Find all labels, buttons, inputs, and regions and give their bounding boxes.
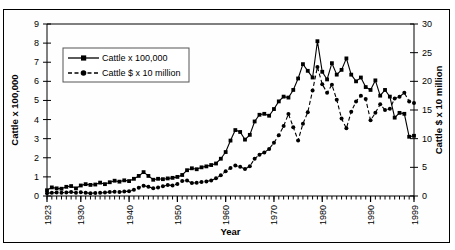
series-marker xyxy=(108,180,112,184)
series-marker xyxy=(291,88,295,92)
series-marker xyxy=(89,183,93,187)
series-marker xyxy=(272,141,276,145)
x-axis-title: Year xyxy=(220,226,240,237)
series-marker xyxy=(93,191,97,195)
series-marker xyxy=(93,183,97,187)
series-marker xyxy=(412,134,416,138)
series-marker xyxy=(190,181,194,185)
series-marker xyxy=(185,168,189,172)
x-tick-label: 1999 xyxy=(410,205,420,225)
left-tick-label: 8 xyxy=(34,38,39,48)
series-marker xyxy=(349,73,353,77)
series-marker xyxy=(306,110,310,114)
series-marker xyxy=(320,70,324,74)
x-tick-label: 1940 xyxy=(125,205,135,225)
series-marker xyxy=(45,191,49,195)
series-marker xyxy=(209,179,213,183)
series-marker xyxy=(55,186,59,190)
series-marker xyxy=(175,175,179,179)
series-marker xyxy=(267,114,271,118)
series-marker xyxy=(180,173,184,177)
series-marker xyxy=(243,167,247,171)
series-marker xyxy=(364,97,368,101)
series-marker xyxy=(180,179,184,183)
series-marker xyxy=(393,97,397,101)
series-marker xyxy=(272,107,276,111)
series-marker xyxy=(69,184,73,188)
series-marker xyxy=(219,157,223,161)
series-marker xyxy=(354,99,358,103)
series-marker xyxy=(84,191,88,195)
series-marker xyxy=(103,182,107,186)
series-marker xyxy=(311,76,315,80)
series-marker xyxy=(108,190,112,194)
series-marker xyxy=(248,133,252,137)
series-marker xyxy=(55,191,59,195)
series-marker xyxy=(359,94,363,98)
series-marker xyxy=(224,169,228,173)
series-marker xyxy=(50,191,54,195)
right-tick-label: 15 xyxy=(422,105,432,115)
series-marker xyxy=(50,186,54,190)
series-marker xyxy=(132,188,136,192)
series-marker xyxy=(296,77,300,81)
series-marker xyxy=(175,182,179,186)
series-marker xyxy=(74,186,78,190)
series-marker xyxy=(84,182,88,186)
series-marker xyxy=(59,191,63,195)
series-marker xyxy=(161,177,165,181)
series-marker xyxy=(340,68,344,72)
series-marker xyxy=(320,82,324,86)
series-marker xyxy=(127,189,131,193)
x-tick-label: 1950 xyxy=(173,205,183,225)
series-marker xyxy=(325,91,329,95)
series-marker xyxy=(219,173,223,177)
series-marker xyxy=(204,179,208,183)
left-tick-label: 7 xyxy=(34,57,39,67)
series-marker xyxy=(407,99,411,103)
series-marker xyxy=(378,102,382,106)
right-tick-label: 0 xyxy=(422,191,427,201)
series-marker xyxy=(359,76,363,80)
right-tick-label: 30 xyxy=(422,19,432,29)
series-marker xyxy=(277,100,281,104)
series-marker xyxy=(286,112,290,116)
series-marker xyxy=(195,181,199,185)
series-marker xyxy=(354,79,358,83)
series-marker xyxy=(233,164,237,168)
left-axis-title: Cattle x 100,000 xyxy=(9,74,20,145)
series-marker xyxy=(214,162,218,166)
series-marker xyxy=(132,177,136,181)
series-marker xyxy=(171,176,175,180)
series-marker xyxy=(156,185,160,189)
series-marker xyxy=(340,117,344,121)
left-tick-label: 6 xyxy=(34,76,39,86)
series-marker xyxy=(137,174,141,178)
series-marker xyxy=(253,120,257,124)
series-marker xyxy=(407,135,411,139)
series-marker xyxy=(224,150,228,154)
series-marker xyxy=(388,95,392,99)
series-marker xyxy=(79,184,83,188)
series-marker xyxy=(60,187,64,191)
series-marker xyxy=(113,179,117,183)
series-marker xyxy=(393,116,397,120)
series-marker xyxy=(412,101,416,105)
series-marker xyxy=(315,65,319,69)
left-tick-label: 3 xyxy=(34,134,39,144)
series-marker xyxy=(349,110,353,114)
series-line-2 xyxy=(47,67,414,193)
series-marker xyxy=(383,88,387,92)
right-tick-label: 10 xyxy=(422,134,432,144)
series-marker xyxy=(388,107,392,111)
series-marker xyxy=(335,98,339,102)
series-marker xyxy=(373,78,377,82)
series-marker xyxy=(190,166,194,170)
series-marker xyxy=(311,89,315,93)
series-marker xyxy=(64,185,68,189)
series-marker xyxy=(287,96,291,100)
series-marker xyxy=(147,174,151,178)
left-tick-label: 4 xyxy=(34,115,39,125)
series-marker xyxy=(200,165,204,169)
series-marker xyxy=(262,112,266,116)
